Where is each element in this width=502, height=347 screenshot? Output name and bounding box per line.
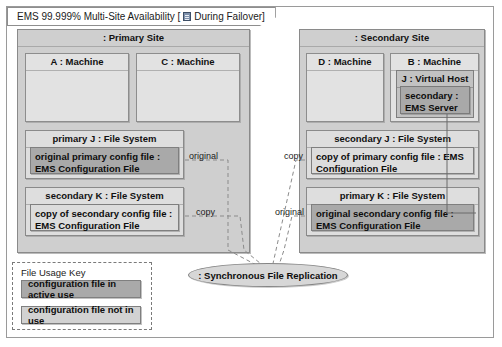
primary-j-filesystem-label: primary J : File System (26, 131, 183, 148)
legend-item-active: configuration file in active use (21, 280, 141, 298)
machine-d-node[interactable]: D : Machine (306, 53, 384, 122)
frame-title-text-before: EMS 99.999% Multi-Site Availability [ (17, 12, 180, 22)
artifact-copy-of-secondary-config[interactable]: copy of secondary config file : EMS Conf… (30, 204, 179, 231)
edge-label-primary-k-copy: copy (196, 208, 215, 217)
synchronous-file-replication-node[interactable]: : Synchronous File Replication (188, 263, 348, 287)
note-icon (183, 12, 191, 21)
edge-label-secondary-k-original: original (275, 208, 304, 217)
artifact-original-secondary-config[interactable]: original secondary config file : EMS Con… (311, 204, 474, 231)
edge-label-secondary-j-copy: copy (284, 152, 303, 161)
legend-item-inactive: configuration file not in use (21, 306, 141, 324)
machine-c-node[interactable]: C : Machine (136, 53, 240, 122)
machine-c-label: C : Machine (137, 54, 239, 71)
secondary-site-label: : Secondary Site (300, 30, 484, 47)
secondary-j-filesystem-label: secondary J : File System (307, 131, 478, 148)
machine-b-label: B : Machine (391, 54, 478, 71)
machine-d-label: D : Machine (307, 54, 383, 71)
machine-a-node[interactable]: A : Machine (25, 53, 129, 122)
artifact-original-primary-config[interactable]: original primary config file : EMS Confi… (30, 147, 179, 174)
edge-label-primary-j-original: original (189, 152, 218, 161)
primary-k-filesystem-label: primary K : File System (307, 188, 478, 205)
machine-a-label: A : Machine (26, 54, 128, 71)
frame-title-text-after: During Failover] (194, 12, 265, 22)
artifact-copy-of-primary-config[interactable]: copy of primary config file : EMS Config… (311, 147, 474, 174)
secondary-k-filesystem-label: secondary K : File System (26, 188, 183, 205)
diagram-canvas: EMS 99.999% Multi-Site Availability [ Du… (0, 0, 502, 347)
frame-title-tab: EMS 99.999% Multi-Site Availability [ Du… (7, 7, 276, 26)
primary-site-label: : Primary Site (18, 30, 249, 47)
component-secondary-ems-server[interactable]: secondary : EMS Server (400, 86, 470, 114)
